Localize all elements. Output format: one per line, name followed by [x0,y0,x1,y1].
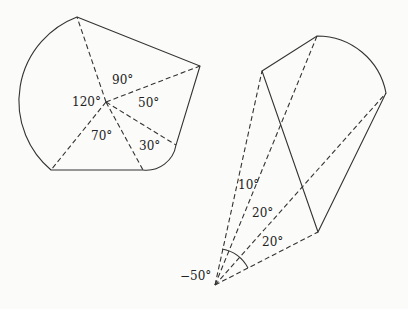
angle-label: −50° [180,269,211,283]
right-figure-rays [215,36,386,285]
right-angle-labels: 10° 20° 20° −50° [180,178,283,283]
angle-label: 10° [238,178,259,192]
diagram-canvas: 90° 120° 50° 70° 30° 10° 20° 20° −50° [0,0,408,309]
left-figure-outline [19,17,200,170]
angle-label: 30° [139,139,160,153]
left-angle-labels: 90° 120° 50° 70° 30° [72,73,160,153]
angle-label: 120° [72,95,101,109]
angle-label: 50° [138,96,159,110]
left-figure-radii [51,17,200,170]
geometry-diagram: 90° 120° 50° 70° 30° 10° 20° 20° −50° [0,0,408,309]
angle-label: 20° [262,235,283,249]
right-figure-outline [262,36,386,232]
angle-label: 20° [252,206,273,220]
angle-label: 70° [91,129,112,143]
angle-label: 90° [112,73,133,87]
